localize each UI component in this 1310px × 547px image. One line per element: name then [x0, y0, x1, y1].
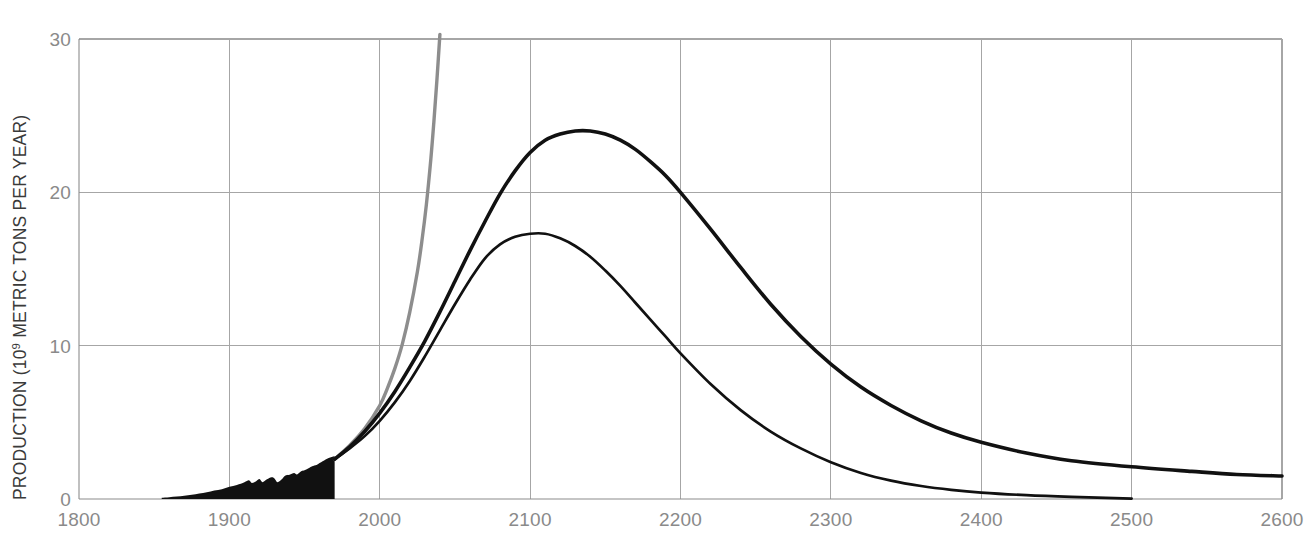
series-path-continued-exponential-growth [335, 34, 440, 459]
x-tick-label-2300: 2300 [809, 509, 852, 530]
x-tick-label-2200: 2200 [659, 509, 702, 530]
series-path-high-estimate-cycle [335, 131, 1282, 476]
x-tick-label-2000: 2000 [358, 509, 401, 530]
y-tick-label-10: 10 [49, 336, 71, 357]
historical-production-area [162, 456, 335, 499]
y-tick-label-30: 30 [49, 29, 71, 50]
grid-lines [79, 39, 1282, 499]
x-axis-tick-labels: 180019002000210022002300240025002600 [57, 509, 1303, 530]
y-tick-label-20: 20 [49, 182, 71, 203]
series-paths [335, 34, 1282, 498]
x-tick-label-2600: 2600 [1260, 509, 1303, 530]
x-tick-label-2500: 2500 [1110, 509, 1153, 530]
chart-container: 180019002000210022002300240025002600 010… [0, 0, 1310, 547]
x-tick-label-1800: 1800 [57, 509, 100, 530]
series-path-low-estimate-cycle [335, 233, 1132, 498]
production-line-chart: 180019002000210022002300240025002600 010… [0, 0, 1310, 547]
y-axis-title: PRODUCTION (109 METRIC TONS PER YEAR) [10, 115, 30, 500]
y-tick-label-0: 0 [60, 489, 71, 510]
x-tick-label-1900: 1900 [208, 509, 251, 530]
x-tick-label-2100: 2100 [509, 509, 552, 530]
x-tick-label-2400: 2400 [960, 509, 1003, 530]
y-axis-tick-labels: 0102030 [49, 29, 71, 510]
historical-production-path [162, 456, 335, 499]
